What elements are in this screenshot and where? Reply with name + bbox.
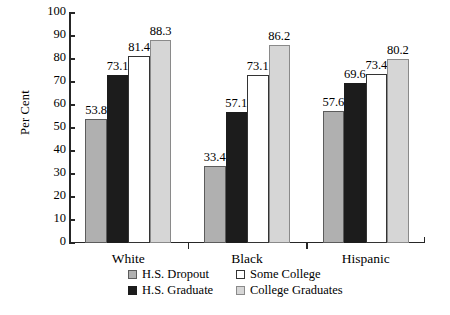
y-axis-tick-mark bbox=[69, 104, 75, 106]
legend-swatch bbox=[236, 286, 245, 295]
legend-item[interactable]: Some College bbox=[236, 268, 320, 281]
legend-label: H.S. Graduate bbox=[142, 284, 213, 297]
y-axis-tick-mark bbox=[69, 150, 75, 152]
y-axis-tick-mark bbox=[69, 12, 75, 14]
bar bbox=[344, 83, 366, 243]
x-axis-category-label: Hispanic bbox=[316, 251, 416, 267]
bar bbox=[128, 56, 150, 243]
bar bbox=[247, 75, 269, 243]
y-axis-tick-mark bbox=[69, 81, 75, 83]
bar bbox=[204, 166, 226, 243]
bar bbox=[323, 111, 345, 243]
bar bbox=[366, 74, 388, 243]
bar bbox=[107, 75, 129, 243]
x-axis-end-tick bbox=[424, 237, 426, 243]
y-axis-tick-label: 50 bbox=[54, 119, 67, 134]
plot-area: 0102030405060708090100 53.873.181.488.33… bbox=[69, 13, 425, 243]
bar bbox=[150, 40, 172, 243]
legend-label: College Graduates bbox=[250, 284, 343, 297]
bar-value-label: 88.3 bbox=[143, 24, 179, 39]
y-axis-tick-label: 100 bbox=[47, 4, 66, 19]
y-axis-tick-mark bbox=[69, 127, 75, 129]
y-axis-tick-mark bbox=[69, 173, 75, 175]
y-axis-tick-mark bbox=[69, 242, 75, 244]
y-axis-title: Per Cent bbox=[18, 68, 33, 158]
bar bbox=[85, 119, 107, 243]
legend-item[interactable]: H.S. Graduate bbox=[128, 284, 213, 297]
y-axis-tick-label: 60 bbox=[54, 96, 67, 111]
legend: H.S. DropoutH.S. GraduateSome CollegeCol… bbox=[128, 268, 428, 308]
y-axis-tick-label: 0 bbox=[60, 234, 66, 249]
bar-value-label: 80.2 bbox=[380, 43, 416, 58]
bar bbox=[226, 112, 248, 243]
y-axis-tick-label: 90 bbox=[54, 27, 67, 42]
bar-chart: Per Cent 0102030405060708090100 53.873.1… bbox=[0, 0, 450, 315]
legend-label: H.S. Dropout bbox=[142, 268, 209, 281]
legend-swatch bbox=[128, 286, 137, 295]
x-axis-category-label: Black bbox=[197, 251, 297, 267]
legend-swatch bbox=[236, 270, 245, 279]
y-axis-tick-label: 20 bbox=[54, 188, 67, 203]
y-axis-tick-mark bbox=[69, 219, 75, 221]
y-axis-tick-mark bbox=[69, 196, 75, 198]
legend-label: Some College bbox=[250, 268, 320, 281]
bar bbox=[269, 45, 291, 243]
y-axis-tick-mark bbox=[69, 58, 75, 60]
legend-item[interactable]: College Graduates bbox=[236, 284, 343, 297]
x-axis-tick-mark bbox=[188, 243, 190, 249]
y-axis-tick-label: 80 bbox=[54, 50, 67, 65]
y-axis-tick-label: 10 bbox=[54, 211, 67, 226]
x-axis-category-label: White bbox=[78, 251, 178, 267]
y-axis-tick-label: 70 bbox=[54, 73, 67, 88]
legend-item[interactable]: H.S. Dropout bbox=[128, 268, 209, 281]
bar-value-label: 86.2 bbox=[261, 29, 297, 44]
x-axis-tick-mark bbox=[306, 243, 308, 249]
y-axis-tick-label: 30 bbox=[54, 165, 67, 180]
bar bbox=[387, 59, 409, 243]
y-axis-tick-mark bbox=[69, 35, 75, 37]
y-axis-tick-label: 40 bbox=[54, 142, 67, 157]
legend-swatch bbox=[128, 270, 137, 279]
